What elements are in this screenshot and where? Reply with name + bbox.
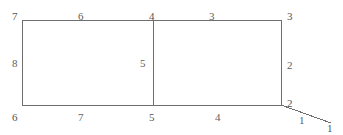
label-edge-7: 7 <box>78 112 84 123</box>
label-vertex-2: 2 <box>287 98 293 109</box>
diagram-canvas: 7436521 63852741 <box>0 0 343 135</box>
segment-group <box>22 20 331 123</box>
label-vertex-3: 3 <box>287 11 293 22</box>
label-edge-6: 6 <box>78 11 84 22</box>
label-vertex-6: 6 <box>12 112 18 123</box>
label-edge-3: 3 <box>209 11 215 22</box>
label-edge-2: 2 <box>287 60 293 71</box>
label-edge-5: 5 <box>140 58 146 69</box>
label-edge-8: 8 <box>12 58 18 69</box>
label-vertex-5: 5 <box>149 112 155 123</box>
label-vertex-4: 4 <box>149 11 155 22</box>
label-vertex-1: 1 <box>327 123 333 134</box>
label-edge-1: 1 <box>299 115 305 126</box>
label-edge-4: 4 <box>215 112 221 123</box>
label-vertex-7: 7 <box>12 11 18 22</box>
